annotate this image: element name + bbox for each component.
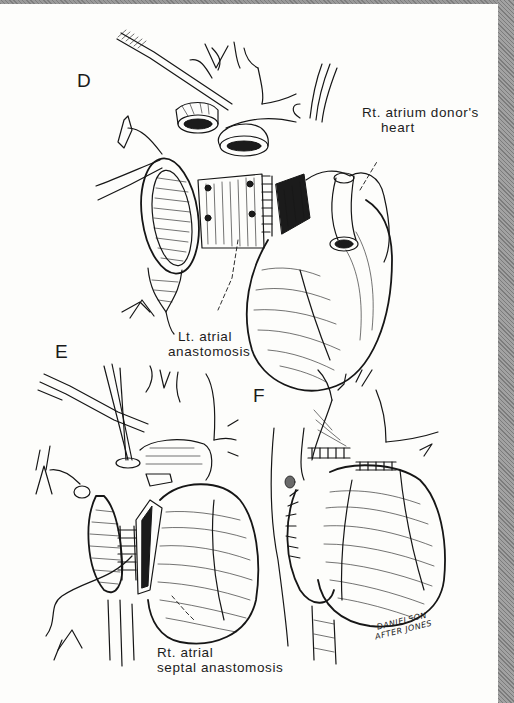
scan-right-edge	[498, 0, 514, 703]
label-line: Rt. atrial	[157, 645, 283, 660]
label-line: Lt. atrial	[168, 329, 250, 344]
illustration-page: D E F Rt. atrium donor's heart Lt. atria…	[0, 4, 498, 703]
label-rt-atrium-donor-heart: Rt. atrium donor's heart	[362, 105, 479, 135]
panel-letter-d: D	[77, 70, 91, 92]
label-rt-atrial-septal-anastomosis: Rt. atrial septal anastomosis	[157, 645, 283, 675]
label-lt-atrial-anastomosis: Lt. atrial anastomosis	[168, 329, 250, 359]
label-line: anastomosis	[168, 344, 250, 359]
panel-letter-f: F	[253, 385, 265, 407]
panel-letter-e: E	[55, 341, 68, 363]
label-line: septal anastomosis	[157, 660, 283, 675]
label-line: heart	[362, 120, 479, 135]
panel-e-drawing	[36, 364, 258, 666]
label-line: Rt. atrium donor's	[362, 105, 479, 120]
